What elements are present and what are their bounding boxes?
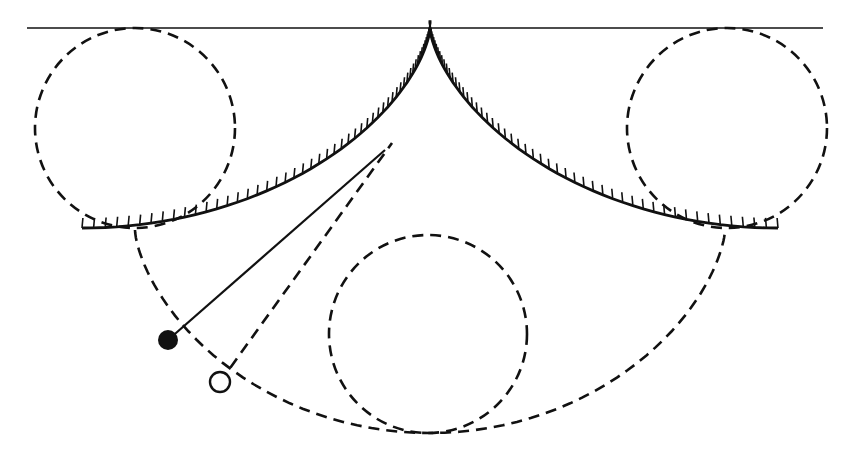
diagram-canvas [0, 0, 852, 455]
left-cycloidal-cheek [82, 28, 430, 228]
left-generating-circle [35, 28, 235, 228]
cheek-hatching [82, 20, 778, 228]
alternate-string-dashed [220, 143, 392, 382]
pendulum-bob-filled [158, 330, 178, 350]
right-generating-circle [627, 28, 827, 228]
right-cycloidal-cheek [430, 28, 778, 228]
pendulum-bob-open [210, 372, 230, 392]
cycloidal-pendulum-diagram [0, 0, 852, 455]
cycloid-bob-path [135, 230, 725, 433]
bottom-generating-circle [329, 235, 527, 433]
